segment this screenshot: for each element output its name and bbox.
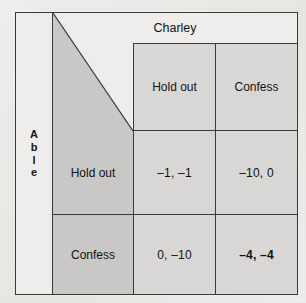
column-header-label: Confess [234,80,278,94]
column-header-label: Hold out [152,80,197,94]
column-header-hold-out: Hold out [133,44,215,131]
row-header-confess: Confess [53,214,133,294]
payoff-value: –10, 0 [239,166,274,180]
payoff-cell-confess-confess: –4, –4 [215,214,297,294]
payoff-cell-holdout-confess: –10, 0 [215,131,297,214]
diagonal-divider-icon [53,44,133,131]
row-player-strip: A b l e [16,13,53,294]
row-player-letter-2: l [32,154,35,167]
row-header-hold-out: Hold out [53,131,133,214]
payoff-value-equilibrium: –4, –4 [239,248,274,262]
payoff-cell-confess-holdout: 0, –10 [133,214,215,294]
row-player-label: A b l e [30,128,38,180]
column-header-confess: Confess [215,44,297,131]
column-player-label: Charley [153,21,196,35]
payoff-matrix: A b l e Charley Hold out Confess Hold ou… [15,12,298,295]
corner-cell [53,44,133,131]
row-player-letter-3: e [31,166,37,179]
payoff-cell-holdout-holdout: –1, –1 [133,131,215,214]
row-player-letter-0: A [30,128,38,141]
row-player-letter-1: b [31,141,38,154]
row-header-label: Hold out [71,166,116,180]
row-header-label: Confess [71,248,115,262]
payoff-value: 0, –10 [157,248,192,262]
payoff-value: –1, –1 [157,166,192,180]
